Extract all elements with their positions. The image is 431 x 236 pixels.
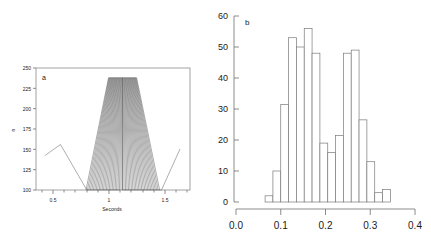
- histogram-bar: [265, 196, 273, 202]
- b-y-ticklabel-60: 60: [218, 11, 228, 21]
- histogram-bar: [351, 50, 359, 202]
- trace-falling-limb: [130, 78, 143, 190]
- histogram-bar: [320, 143, 328, 202]
- panel-a-label: a: [42, 74, 46, 81]
- x-ticklabel-1: 1: [108, 197, 111, 203]
- x-ticklabel-1-5: 1.5: [162, 197, 169, 203]
- b-y-ticklabel-0: 0: [223, 197, 228, 207]
- y-ticklabel-175: 175: [23, 126, 32, 132]
- panel-b-y-axis: 60 50 40 30 20 10 0: [218, 11, 239, 207]
- x-ticklabel-0-5: 0.5: [50, 197, 57, 203]
- trace-falling-limb: [136, 78, 158, 190]
- histogram-bar: [273, 171, 281, 202]
- panel-a-line-plot: a 250 225 200 175 150 125 100 n: [0, 0, 205, 236]
- b-y-ticklabel-50: 50: [218, 42, 228, 52]
- trace-rising-limb: [96, 78, 112, 190]
- panel-a-y-axis-title: n: [10, 128, 16, 131]
- trace-rising-limb: [93, 78, 111, 190]
- right-rise-trace: [162, 149, 181, 190]
- b-x-ticklabel-0-3: 0.3: [363, 220, 377, 231]
- b-y-ticklabel-30: 30: [218, 104, 228, 114]
- b-y-ticklabel-40: 40: [218, 73, 228, 83]
- trace-rising-limb: [87, 78, 109, 190]
- panel-b-svg: b 60 50 40 30 20 10 0: [200, 0, 431, 236]
- histogram-bar: [367, 162, 375, 202]
- histogram-bar: [281, 104, 289, 202]
- histogram-bar: [359, 120, 367, 202]
- y-ticklabel-200: 200: [23, 106, 32, 112]
- panel-a-x-axis-title: Seconds: [102, 206, 122, 212]
- panel-a-svg: a 250 225 200 175 150 125 100 n: [0, 0, 205, 236]
- y-ticklabel-250: 250: [23, 65, 32, 71]
- panel-a-x-axis: 0.5 1 1.5: [42, 190, 187, 203]
- histogram-bar: [312, 53, 320, 202]
- b-x-ticklabel-0-1: 0.1: [274, 220, 288, 231]
- panel-b-label: b: [245, 18, 250, 27]
- b-y-ticklabel-10: 10: [218, 166, 228, 176]
- histogram-bar: [383, 190, 391, 202]
- left-peak-trace: [45, 145, 87, 191]
- histogram-bar: [336, 135, 344, 202]
- b-y-ticklabel-20: 20: [218, 135, 228, 145]
- histogram-bar: [296, 47, 304, 202]
- y-ticklabel-225: 225: [23, 86, 32, 92]
- trace-rising-limb: [102, 78, 115, 190]
- y-ticklabel-150: 150: [23, 147, 32, 153]
- panel-b-bars: [265, 28, 390, 202]
- y-ticklabel-125: 125: [23, 167, 32, 173]
- figure-root: a 250 225 200 175 150 125 100 n: [0, 0, 431, 236]
- histogram-bar: [375, 193, 383, 202]
- panel-b-histogram: b 60 50 40 30 20 10 0: [200, 0, 431, 236]
- panel-a-traces: [86, 78, 160, 190]
- histogram-bar: [343, 53, 351, 202]
- panel-b-x-axis: 0.0 0.1 0.2 0.3 0.4: [229, 209, 422, 231]
- panel-a-y-axis: 250 225 200 175 150 125 100: [23, 65, 36, 193]
- b-x-ticklabel-0-4: 0.4: [408, 220, 422, 231]
- trace-falling-limb: [133, 78, 150, 190]
- histogram-bar: [304, 28, 312, 202]
- histogram-bar: [289, 38, 297, 202]
- b-x-ticklabel-0-2: 0.2: [319, 220, 333, 231]
- b-x-ticklabel-0-0: 0.0: [229, 220, 243, 231]
- histogram-bar: [328, 152, 336, 202]
- trace-falling-limb: [134, 78, 152, 190]
- y-ticklabel-100: 100: [23, 187, 32, 193]
